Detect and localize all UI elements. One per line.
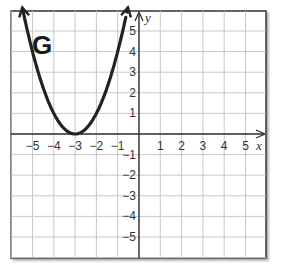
y-axis-label: y xyxy=(143,10,151,25)
y-tick-label: −3 xyxy=(122,189,136,203)
y-tick-label: 4 xyxy=(129,45,136,59)
x-tick-label: −5 xyxy=(26,139,40,153)
x-tick-label: 1 xyxy=(157,139,164,153)
y-tick-label: 1 xyxy=(129,106,136,120)
coordinate-graph: −5−4−3−2−11234554321−1−2−3−4−5 x y G xyxy=(0,0,288,272)
y-tick-label: 3 xyxy=(129,65,136,79)
x-tick-label: −4 xyxy=(47,139,61,153)
y-tick-label: −2 xyxy=(122,168,136,182)
graph-name-label: G xyxy=(32,30,52,60)
x-tick-label: 2 xyxy=(178,139,185,153)
x-axis-label: x xyxy=(255,138,262,153)
x-tick-label: −2 xyxy=(90,139,104,153)
y-tick-label: −4 xyxy=(122,209,136,223)
y-tick-label: −1 xyxy=(122,148,136,162)
x-tick-label: 3 xyxy=(200,139,207,153)
x-tick-label: 5 xyxy=(242,139,249,153)
y-tick-label: 2 xyxy=(129,86,136,100)
x-tick-label: −3 xyxy=(68,139,82,153)
y-tick-label: −5 xyxy=(122,230,136,244)
y-tick-label: 5 xyxy=(129,24,136,38)
x-tick-label: 4 xyxy=(221,139,228,153)
